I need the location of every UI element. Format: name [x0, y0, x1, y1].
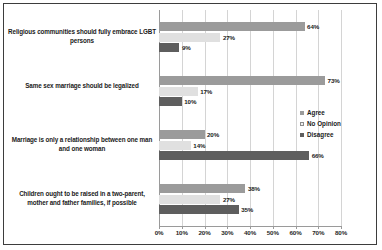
bar [159, 87, 198, 96]
bar-value-label: 9% [182, 44, 191, 51]
gridline [250, 10, 251, 226]
bar [159, 97, 182, 106]
bar [159, 184, 245, 193]
bar-value-label: 14% [193, 142, 205, 149]
legend-label: Agree [307, 109, 325, 116]
legend-swatch-icon [300, 122, 304, 126]
legend-swatch-icon [300, 111, 304, 115]
category-label: Same sex marriage should be legalized [8, 81, 156, 90]
x-axis-tick-label: 80% [328, 229, 354, 236]
category-label: Marriage is only a relationship between … [8, 135, 156, 153]
bar-value-label: 38% [248, 185, 260, 192]
bar-value-label: 20% [207, 131, 219, 138]
legend-label: Disagree [307, 131, 334, 138]
bar-value-label: 10% [184, 98, 196, 105]
bar-value-label: 66% [312, 152, 324, 159]
gridline [296, 10, 297, 226]
chart-frame: 0%10%20%30%40%50%60%70%80% 64%27%9%73%17… [3, 3, 377, 245]
bar-value-label: 73% [328, 77, 340, 84]
bar-value-label: 27% [223, 34, 235, 41]
legend-item[interactable]: Agree [300, 107, 341, 118]
legend-item[interactable]: Disagree [300, 129, 341, 140]
bar [159, 33, 220, 42]
bar-value-label: 35% [241, 206, 253, 213]
chart-plot-wrapper: 0%10%20%30%40%50%60%70%80% 64%27%9%73%17… [4, 4, 378, 246]
bar-value-label: 27% [223, 196, 235, 203]
gridline [273, 10, 274, 226]
bar [159, 76, 325, 85]
category-label: Religious communities should fully embra… [8, 27, 156, 45]
category-label: Children ought to be raised in a two-par… [8, 189, 156, 207]
bar [159, 151, 309, 160]
bar [159, 141, 191, 150]
bar-value-label: 64% [307, 23, 319, 30]
legend-label: No Opinion [307, 120, 341, 127]
gridline [227, 10, 228, 226]
gridline [341, 10, 342, 226]
bar [159, 205, 239, 214]
bar-value-label: 17% [200, 88, 212, 95]
bar [159, 43, 179, 52]
legend-swatch-icon [300, 133, 304, 137]
bar [159, 22, 305, 31]
bar [159, 130, 205, 139]
bar [159, 195, 220, 204]
chart-legend: AgreeNo OpinionDisagree [300, 107, 341, 140]
legend-item[interactable]: No Opinion [300, 118, 341, 129]
